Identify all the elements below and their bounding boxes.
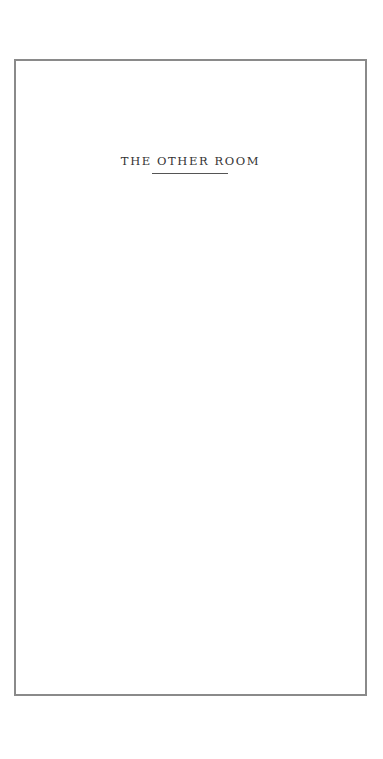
document-page: THE OTHER ROOM	[14, 59, 367, 696]
chapter-title: THE OTHER ROOM	[16, 154, 365, 168]
title-underline	[152, 173, 228, 174]
